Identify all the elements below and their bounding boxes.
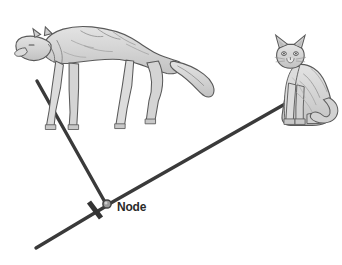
node-label: Node xyxy=(117,200,146,213)
phylogeny-diagram xyxy=(0,0,342,265)
cat-illustration xyxy=(275,35,338,125)
figure-canvas: Node xyxy=(0,0,342,265)
cat-branch xyxy=(109,104,285,204)
common-ancestor-node xyxy=(103,200,111,208)
wolf-illustration xyxy=(15,26,214,129)
